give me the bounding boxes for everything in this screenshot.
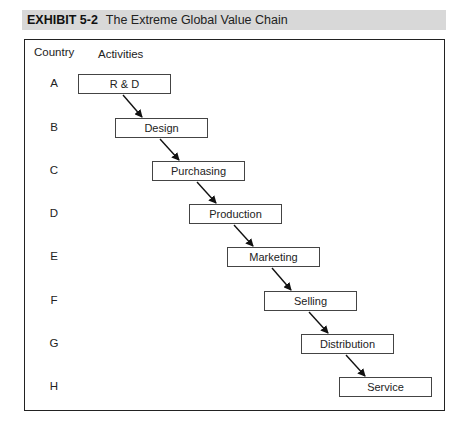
arrow-icon bbox=[123, 95, 142, 117]
arrow-icon bbox=[309, 312, 328, 333]
flow-arrows bbox=[0, 0, 470, 431]
arrow-icon bbox=[197, 182, 216, 203]
arrow-icon bbox=[272, 268, 291, 290]
arrow-icon bbox=[346, 355, 365, 376]
arrow-icon bbox=[234, 225, 253, 246]
arrow-icon bbox=[160, 139, 179, 160]
